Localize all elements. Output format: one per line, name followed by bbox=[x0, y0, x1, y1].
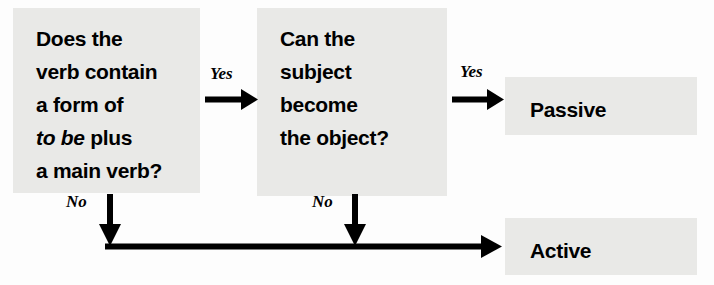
flowchart-canvas: Does theverb containa form ofto be plusa… bbox=[0, 0, 714, 285]
outcome-box-active-label: Active bbox=[530, 234, 591, 267]
edge-label-yes-2: Yes bbox=[460, 62, 483, 82]
question-1-line-4-italic: to be bbox=[36, 126, 85, 149]
decision-box-verb-contains-to-be-label: Does theverb containa form ofto be plusa… bbox=[36, 22, 162, 187]
arrow-no-1-down bbox=[99, 194, 121, 246]
decision-box-subject-become-object-label: Can thesubjectbecomethe object? bbox=[280, 22, 389, 154]
question-2-line-2: subject bbox=[280, 60, 351, 83]
arrow-bottom-to-active bbox=[105, 235, 502, 258]
edge-label-no-2: No bbox=[312, 192, 333, 212]
arrow-yes-2 bbox=[452, 89, 504, 110]
question-2-line-1: Can the bbox=[280, 27, 355, 50]
question-1-line-5: a main verb? bbox=[36, 159, 162, 182]
outcome-box-passive-label: Passive bbox=[530, 93, 606, 126]
question-1-line-4-rest: plus bbox=[85, 126, 133, 149]
edge-label-yes-1: Yes bbox=[210, 64, 233, 84]
arrow-yes-1 bbox=[205, 89, 258, 110]
question-1-line-2: verb contain bbox=[36, 60, 157, 83]
question-2-line-4: the object? bbox=[280, 126, 389, 149]
question-2-line-3: become bbox=[280, 93, 358, 116]
question-1-line-1: Does the bbox=[36, 27, 122, 50]
edge-label-no-1: No bbox=[66, 192, 87, 212]
question-1-line-3: a form of bbox=[36, 93, 123, 116]
arrow-no-2-down bbox=[344, 194, 366, 246]
